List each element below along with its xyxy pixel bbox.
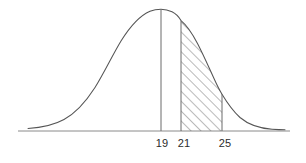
x-tick-label-25: 25 [219, 138, 232, 149]
x-tick-label-21: 21 [178, 138, 191, 149]
normal-distribution-figure: 19 21 25 [0, 0, 306, 163]
normal-distribution-curve [28, 9, 285, 130]
x-tick-label-19: 19 [156, 138, 169, 149]
shaded-area-21-to-25 [178, 10, 226, 134]
bell-curve-chart [0, 0, 306, 163]
